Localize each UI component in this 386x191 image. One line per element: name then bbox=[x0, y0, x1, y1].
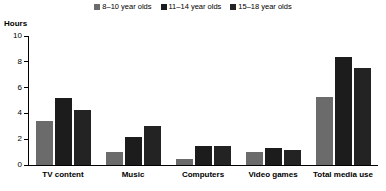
category-label: Music bbox=[98, 170, 168, 180]
category-label: Computers bbox=[168, 170, 238, 180]
bar bbox=[195, 146, 212, 165]
bar bbox=[125, 137, 142, 165]
bar bbox=[176, 159, 193, 165]
bar bbox=[246, 152, 263, 165]
bars-layer bbox=[0, 0, 386, 191]
chart-plot-area: 0246810 TV contentMusicComputersVideo ga… bbox=[0, 0, 386, 191]
category-label: Total media use bbox=[308, 170, 378, 180]
bar bbox=[36, 121, 53, 165]
bar bbox=[354, 68, 371, 165]
bar bbox=[214, 146, 231, 165]
bar bbox=[74, 110, 91, 165]
bar bbox=[144, 126, 161, 165]
bar bbox=[265, 148, 282, 165]
bar bbox=[335, 57, 352, 165]
category-label: TV content bbox=[28, 170, 98, 180]
bar bbox=[284, 150, 301, 165]
category-label: Video games bbox=[238, 170, 308, 180]
bar bbox=[316, 97, 333, 165]
bar bbox=[55, 98, 72, 165]
bar bbox=[106, 152, 123, 165]
